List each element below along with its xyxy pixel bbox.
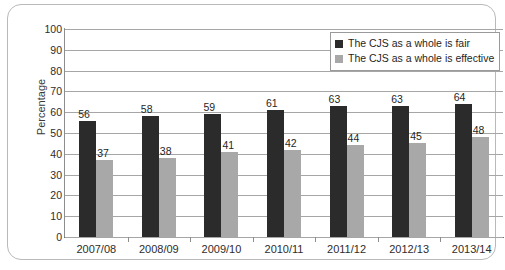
x-axis-tick-mark xyxy=(378,237,379,242)
y-axis-tick-label: 80 xyxy=(32,66,62,77)
bar-value-label: 64 xyxy=(454,92,466,103)
bar-value-label: 41 xyxy=(222,140,234,151)
x-axis-category-label: 2010/11 xyxy=(249,244,319,255)
y-axis-tick-label: 70 xyxy=(32,86,62,97)
legend-item-label: The CJS as a whole is fair xyxy=(348,38,470,49)
bar-effective[interactable] xyxy=(409,143,426,237)
y-axis-tick-label: 100 xyxy=(32,24,62,35)
bar-effective[interactable] xyxy=(221,152,238,237)
bar-effective[interactable] xyxy=(284,150,301,237)
bar-value-label: 42 xyxy=(285,138,297,149)
bar-value-label: 48 xyxy=(473,125,485,136)
y-axis-tick-label: 30 xyxy=(32,170,62,181)
x-axis-category-label: 2012/13 xyxy=(374,244,444,255)
bar-group: 5941 xyxy=(204,29,238,237)
bar-fair[interactable] xyxy=(142,116,159,237)
bar-effective[interactable] xyxy=(96,160,113,237)
bar-effective[interactable] xyxy=(347,145,364,237)
bar-value-label: 56 xyxy=(78,109,90,120)
legend-swatch-icon xyxy=(335,55,343,63)
x-axis-category-label: 2009/10 xyxy=(186,244,256,255)
bar-effective[interactable] xyxy=(472,137,489,237)
x-axis-category-label: 2011/12 xyxy=(312,244,382,255)
gridline xyxy=(65,237,503,238)
y-axis-tick-label: 20 xyxy=(32,190,62,201)
bar-fair[interactable] xyxy=(204,114,221,237)
y-axis-tick-label: 10 xyxy=(32,211,62,222)
x-axis-tick-mark xyxy=(128,237,129,242)
bar-group: 6142 xyxy=(267,29,301,237)
y-axis-tick-label: 0 xyxy=(32,232,62,243)
legend-swatch-icon xyxy=(335,40,343,48)
x-axis-category-label: 2008/09 xyxy=(124,244,194,255)
bar-value-label: 61 xyxy=(266,98,278,109)
y-axis-tick-label: 40 xyxy=(32,149,62,160)
bar-value-label: 45 xyxy=(410,131,422,142)
y-axis-tick-label: 50 xyxy=(32,128,62,139)
x-axis-tick-mark xyxy=(440,237,441,242)
bar-fair[interactable] xyxy=(267,110,284,237)
bar-effective[interactable] xyxy=(159,158,176,237)
legend-item-label: The CJS as a whole is effective xyxy=(348,53,494,64)
bar-value-label: 63 xyxy=(329,94,341,105)
bar-value-label: 44 xyxy=(348,133,360,144)
bar-group: 5838 xyxy=(142,29,176,237)
x-axis-category-label: 2007/08 xyxy=(61,244,131,255)
bar-fair[interactable] xyxy=(330,106,347,237)
legend-item[interactable]: The CJS as a whole is fair xyxy=(335,36,494,51)
bar-group: 5637 xyxy=(79,29,113,237)
chart-frame: Percentage 1009080706050403020100 563758… xyxy=(7,4,496,260)
x-axis-tick-mark xyxy=(315,237,316,242)
bar-value-label: 37 xyxy=(97,148,109,159)
y-axis-tick-labels: 1009080706050403020100 xyxy=(26,5,62,270)
bar-fair[interactable] xyxy=(79,121,96,237)
y-axis-tick-label: 90 xyxy=(32,45,62,56)
x-axis-category-label: 2013/14 xyxy=(437,244,505,255)
bar-value-label: 58 xyxy=(141,104,153,115)
bar-fair[interactable] xyxy=(392,106,409,237)
bar-value-label: 63 xyxy=(391,94,403,105)
chart-legend: The CJS as a whole is fair The CJS as a … xyxy=(330,32,500,71)
legend-item[interactable]: The CJS as a whole is effective xyxy=(335,51,494,66)
bar-value-label: 38 xyxy=(160,146,172,157)
y-axis-tick-label: 60 xyxy=(32,107,62,118)
bar-value-label: 59 xyxy=(203,102,215,113)
x-axis-tick-mark xyxy=(190,237,191,242)
x-axis-tick-mark xyxy=(253,237,254,242)
bar-fair[interactable] xyxy=(455,104,472,237)
